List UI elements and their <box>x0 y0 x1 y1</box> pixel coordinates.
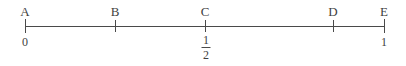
point-label-b: B <box>111 5 120 18</box>
value-label-one: 1 <box>381 36 387 48</box>
tick-mark-c <box>205 20 206 32</box>
tick-mark-e <box>384 19 385 33</box>
value-label-zero: 0 <box>22 36 28 48</box>
value-label-one-half: 1 2 <box>202 34 211 61</box>
point-label-c: C <box>201 5 210 18</box>
tick-mark-d <box>333 20 334 32</box>
point-label-d: D <box>328 5 337 18</box>
point-label-e: E <box>380 5 388 18</box>
point-label-a: A <box>20 5 29 18</box>
tick-mark-b <box>115 20 116 32</box>
number-line-figure: A 0 B C 1 2 D E 1 <box>0 0 406 66</box>
fraction-numerator: 1 <box>202 34 210 47</box>
tick-mark-a <box>25 19 26 33</box>
fraction-denominator: 2 <box>202 48 210 61</box>
